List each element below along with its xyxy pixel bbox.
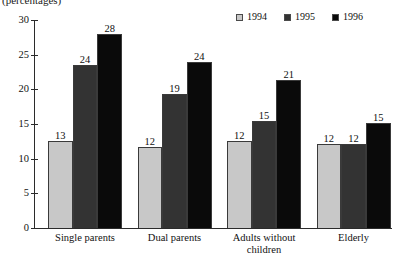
bar-row: 121215 bbox=[317, 20, 391, 228]
bar[interactable]: 12 bbox=[317, 144, 342, 228]
bar-value-label: 15 bbox=[373, 112, 384, 123]
bar-value-label: 12 bbox=[145, 136, 156, 147]
bar-value-label: 15 bbox=[259, 110, 270, 121]
bar[interactable]: 12 bbox=[227, 141, 252, 228]
y-axis-label: 10 bbox=[19, 153, 30, 164]
bar-row: 121924 bbox=[138, 20, 212, 228]
y-axis-label: 0 bbox=[24, 223, 29, 234]
bar-group: 121521Adults without children bbox=[227, 20, 301, 228]
y-axis-tick bbox=[31, 193, 38, 194]
bar[interactable]: 24 bbox=[187, 62, 212, 228]
bar-value-label: 12 bbox=[348, 133, 359, 144]
x-axis-category-label: Dual parents bbox=[148, 232, 201, 244]
bar-value-label: 21 bbox=[283, 69, 294, 80]
y-axis-label: 5 bbox=[24, 188, 29, 199]
bar[interactable]: 28 bbox=[97, 34, 122, 228]
bar[interactable]: 12 bbox=[138, 147, 163, 228]
bar-value-label: 19 bbox=[169, 83, 180, 94]
bar[interactable]: 13 bbox=[48, 141, 73, 228]
chart-title: (percentages) bbox=[2, 0, 61, 6]
bar[interactable]: 12 bbox=[341, 144, 366, 228]
y-axis-tick bbox=[31, 89, 38, 90]
x-axis-category-label: Elderly bbox=[338, 232, 369, 244]
y-axis-tick bbox=[31, 20, 38, 21]
bar[interactable]: 19 bbox=[162, 94, 187, 228]
plot-area: 051015202530 132428Single parents121924D… bbox=[34, 20, 392, 228]
x-axis-line bbox=[34, 228, 392, 229]
bar-value-label: 28 bbox=[104, 23, 115, 34]
y-axis-tick bbox=[31, 55, 38, 56]
bar-row: 132428 bbox=[48, 20, 122, 228]
bar-value-label: 12 bbox=[324, 133, 335, 144]
bar-value-label: 24 bbox=[194, 51, 205, 62]
bar-row: 121521 bbox=[227, 20, 301, 228]
bar[interactable]: 24 bbox=[73, 65, 98, 228]
y-axis-tick bbox=[31, 228, 38, 229]
bar-value-label: 12 bbox=[234, 130, 245, 141]
x-axis-category-label: Single parents bbox=[55, 232, 115, 244]
bar[interactable]: 15 bbox=[252, 121, 277, 228]
bar[interactable]: 15 bbox=[366, 123, 391, 228]
bar-group: 121924Dual parents bbox=[138, 20, 212, 228]
y-axis-label: 30 bbox=[19, 15, 30, 26]
bar-value-label: 24 bbox=[80, 54, 91, 65]
y-axis-tick bbox=[31, 124, 38, 125]
bar-group: 121215Elderly bbox=[317, 20, 391, 228]
bar-chart: (percentages) 199419951996 051015202530 … bbox=[0, 0, 396, 262]
y-axis-tick bbox=[31, 159, 38, 160]
bar[interactable]: 21 bbox=[276, 80, 301, 228]
y-axis-label: 25 bbox=[19, 49, 30, 60]
x-axis-category-label: Adults without children bbox=[233, 232, 296, 255]
bar-value-label: 13 bbox=[55, 130, 66, 141]
y-axis-label: 15 bbox=[19, 119, 30, 130]
y-axis-label: 20 bbox=[19, 84, 30, 95]
bar-group: 132428Single parents bbox=[48, 20, 122, 228]
